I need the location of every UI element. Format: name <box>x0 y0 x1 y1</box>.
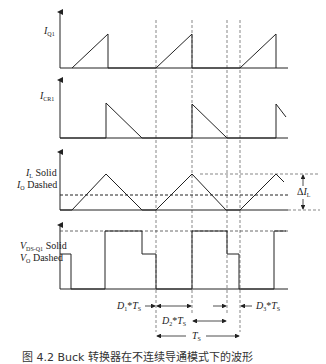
io-label: IO Dashed <box>16 179 57 191</box>
panel-icr1: ICR1 <box>39 80 288 138</box>
vds-label: VDS-Q1 Solid <box>20 240 67 252</box>
d3-label: D3*TS <box>255 300 280 312</box>
panel-il: ΔIL IL Solid IO Dashed <box>16 152 320 210</box>
vds-waveform <box>60 231 286 289</box>
icr1-waveform <box>60 103 286 138</box>
iq1-waveform <box>72 34 276 68</box>
iq1-label: IQ1 <box>43 25 55 37</box>
timing-guides <box>156 20 240 332</box>
panel-vds: VDS-Q1 Solid VO Dashed <box>20 225 288 289</box>
d2-label: D2*TS <box>161 315 186 327</box>
ts-label: TS <box>192 330 201 342</box>
icr1-label: ICR1 <box>39 90 54 102</box>
il-waveform <box>60 174 284 210</box>
figure-caption: 图 4.2 Buck 转换器在不连续导通模式下的波形 <box>22 348 253 364</box>
ripple-label: ΔIL <box>297 186 311 198</box>
d1-label: D1*TS <box>116 300 141 312</box>
vo-label: VO Dashed <box>20 252 63 264</box>
panel-iq1: IQ1 <box>43 12 288 68</box>
il-label: IL Solid <box>25 167 57 179</box>
timing-annotations: D1*TS D3*TS D2*TS TS <box>116 300 280 342</box>
